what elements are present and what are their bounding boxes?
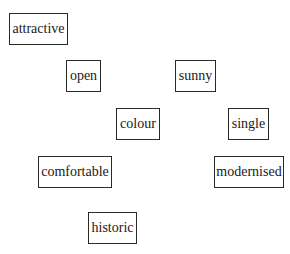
word-box-sunny: sunny — [175, 60, 216, 92]
word-box-single: single — [228, 108, 269, 140]
word-box-open: open — [66, 60, 101, 92]
word-box-colour: colour — [116, 108, 160, 140]
word-box-historic: historic — [88, 212, 137, 244]
word-box-attractive: attractive — [9, 13, 68, 45]
word-box-modernised: modernised — [214, 156, 284, 188]
word-box-comfortable: comfortable — [38, 156, 112, 188]
